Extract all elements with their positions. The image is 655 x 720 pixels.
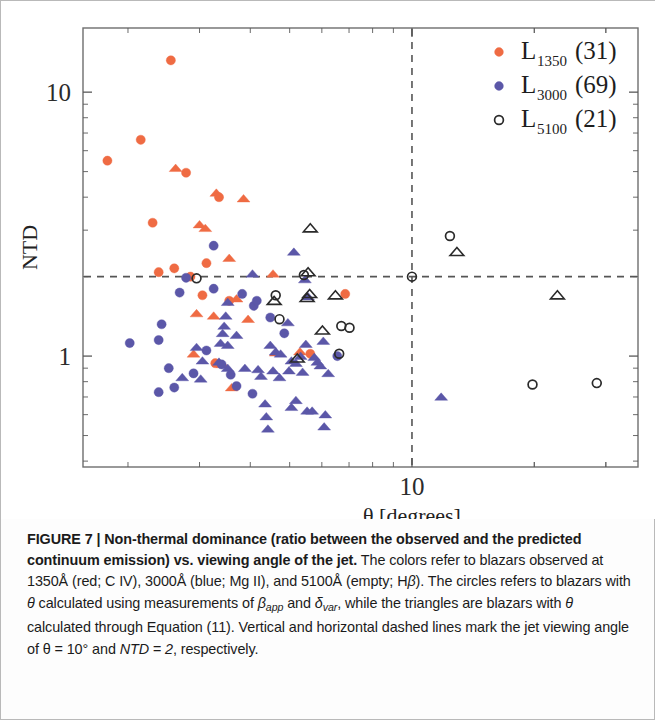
caption-body-8: , respectively.: [173, 641, 258, 657]
data-point-L3000-circle: [226, 370, 235, 379]
data-point-L1350-circle: [214, 193, 223, 202]
data-point-L3000-circle: [209, 284, 218, 293]
figure-label: FIGURE 7: [27, 531, 93, 547]
data-point-L1350-circle: [154, 268, 163, 277]
caption-body-5: , while the triangles are blazars with: [337, 595, 565, 611]
data-point-L3000-circle: [266, 313, 275, 322]
caption-body-3: calculated using measurements of: [35, 595, 258, 611]
data-point-L1350-circle: [136, 135, 145, 144]
data-point-L3000-circle: [157, 320, 166, 329]
caption-body-4: and: [283, 595, 315, 611]
legend-label-base-L3000: L: [521, 71, 536, 98]
data-point-L1350-circle: [198, 291, 207, 300]
x-axis-tick-label: 10: [399, 473, 424, 500]
caption-delta-var-sub: var: [323, 600, 337, 612]
legend-count-L3000: (69): [575, 71, 617, 99]
data-point-L3000-circle: [189, 369, 198, 378]
data-point-L1350-circle: [181, 168, 190, 177]
data-point-L3000-circle: [209, 241, 218, 250]
data-point-L3000-circle: [181, 273, 190, 282]
data-point-L3000-circle: [238, 289, 247, 298]
legend-label-sub-L5100: 5100: [537, 121, 567, 137]
caption-beta-glyph: β: [407, 573, 415, 589]
figure-page: 11010θ [degrees]NTDL1350(31)L3000(69)L51…: [0, 0, 655, 720]
figure-plot-area: 11010θ [degrees]NTDL1350(31)L3000(69)L51…: [1, 1, 655, 519]
caption-ntd-equation: NTD = 2: [120, 641, 173, 657]
data-point-L3000-circle: [170, 383, 179, 392]
x-axis-title: θ [degrees]: [363, 503, 461, 519]
y-axis-tick-label: 10: [46, 79, 71, 106]
legend-label-base-L1350: L: [521, 37, 536, 64]
data-point-L1350-circle: [103, 156, 112, 165]
legend-count-L1350: (31): [575, 37, 617, 65]
data-point-L1350-circle: [202, 259, 211, 268]
data-point-L3000-circle: [248, 389, 257, 398]
scatter-plot: 11010θ [degrees]NTDL1350(31)L3000(69)L51…: [1, 1, 655, 519]
data-point-L3000-circle: [232, 381, 241, 390]
data-point-L1350-circle: [166, 56, 175, 65]
legend-label-sub-L3000: 3000: [537, 87, 567, 103]
caption-delta-var: δ: [315, 595, 323, 611]
data-point-L3000-circle: [164, 364, 173, 373]
data-point-L3000-circle: [154, 388, 163, 397]
data-point-L3000-circle: [175, 288, 184, 297]
data-point-L3000-circle: [125, 338, 134, 347]
caption-theta-equation: θ = 10°: [43, 641, 88, 657]
data-point-L3000-circle: [202, 346, 211, 355]
caption-theta-glyph-2: θ: [565, 595, 573, 611]
caption-body-7: and: [88, 641, 120, 657]
data-point-L1350-circle: [341, 289, 350, 298]
caption-theta-glyph-1: θ: [27, 595, 35, 611]
data-point-L3000-circle: [252, 296, 261, 305]
caption-beta-app: β: [258, 595, 266, 611]
legend-marker-L1350: [495, 48, 504, 57]
legend-label-base-L5100: L: [521, 105, 536, 132]
data-point-L1350-circle: [148, 218, 157, 227]
figure-caption: FIGURE 7 | Non-thermal dominance (ratio …: [27, 529, 633, 660]
caption-beta-app-sub: app: [266, 600, 283, 612]
y-axis-tick-label: 1: [59, 343, 72, 370]
legend-label-sub-L1350: 1350: [537, 53, 567, 69]
legend-count-L5100: (21): [575, 105, 617, 133]
legend-marker-L3000: [495, 82, 504, 91]
caption-body-2: ). The circles refers to blazars with: [416, 573, 631, 589]
data-point-L3000-circle: [280, 329, 289, 338]
data-point-L1350-circle: [170, 264, 179, 273]
data-point-L3000-circle: [154, 335, 163, 344]
y-axis-title: NTD: [17, 225, 42, 270]
